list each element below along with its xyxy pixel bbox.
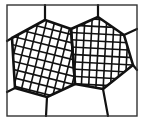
grain-boundary-segment [46,97,47,116]
grain-diagram-canvas [0,0,144,121]
grain-structure-diagram [0,0,144,121]
